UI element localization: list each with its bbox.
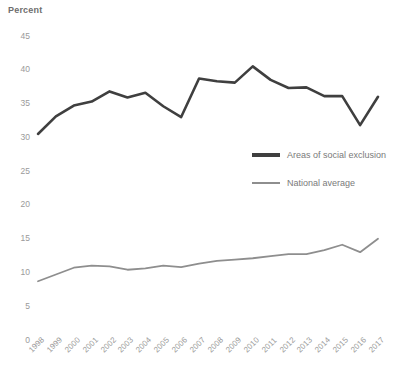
legend-line-swatch-icon bbox=[252, 182, 280, 184]
chart-container: Percent 051015202530354045 1998199920002… bbox=[0, 0, 409, 383]
plot-area bbox=[0, 0, 409, 383]
series-line bbox=[38, 239, 378, 282]
legend-line-swatch-icon bbox=[252, 153, 280, 157]
legend-item-label: National average bbox=[287, 178, 355, 188]
series-line bbox=[38, 66, 378, 134]
legend-item-label: Areas of social exclusion bbox=[287, 150, 386, 160]
legend-item[interactable]: National average bbox=[252, 178, 355, 188]
legend-item[interactable]: Areas of social exclusion bbox=[252, 150, 386, 160]
